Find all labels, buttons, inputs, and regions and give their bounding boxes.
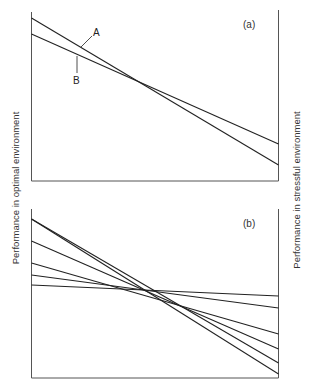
panel-b-lines <box>32 219 279 374</box>
line-b-label: B <box>73 75 80 86</box>
panel-b-label: (b) <box>243 218 255 229</box>
reaction-norm-1 <box>32 219 279 374</box>
panel-a-lines <box>32 18 279 165</box>
reaction-norm-5 <box>32 275 279 308</box>
figure-canvas: (a) A B (b) <box>0 0 311 386</box>
line-a-leader <box>81 36 92 47</box>
panel-b <box>32 209 279 378</box>
left-axis-label: Performance in optimal environment <box>10 112 21 265</box>
panel-a-label: (a) <box>243 19 255 30</box>
panel-a <box>32 10 279 181</box>
reaction-norm-6 <box>32 285 279 296</box>
reaction-norm-4 <box>32 263 279 334</box>
line-a-label: A <box>93 27 100 38</box>
reaction-norm-3 <box>32 241 279 349</box>
line-a <box>32 18 279 165</box>
right-axis-label: Performance in stressful environment <box>291 111 302 268</box>
line-b <box>32 34 279 144</box>
